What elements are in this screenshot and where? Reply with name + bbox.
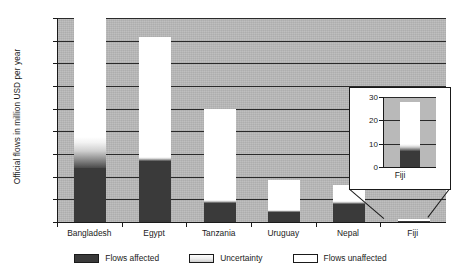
bar-segment-affected [204, 203, 236, 222]
bar-segment-unaffected [268, 180, 300, 209]
bar-segment-affected [333, 204, 365, 222]
bar-segment-uncertainty [74, 137, 106, 168]
legend-swatch-affected-icon [74, 254, 99, 263]
chart-figure: Official flows in million USD per year 0… [0, 0, 461, 280]
x-tick-label: Bangladesh [67, 228, 111, 238]
legend-swatch-unaffected-icon [293, 254, 318, 263]
bar-segment-affected [268, 212, 300, 222]
inset-y-tick-label: 10 [356, 139, 378, 148]
y-tick-mark [53, 86, 57, 87]
x-tick-mark [251, 223, 252, 227]
gridline [58, 63, 446, 64]
inset-bar-segment-unaffected [400, 102, 420, 144]
inset-y-tick-mark [379, 144, 383, 145]
x-tick-label: Fiji [407, 228, 418, 238]
bar-segment-affected [74, 168, 106, 222]
y-tick-mark [53, 177, 57, 178]
y-tick-mark [53, 154, 57, 155]
inset-x-label: Fiji [350, 170, 450, 180]
chart-legend: Flows affected Uncertainty Flows unaffec… [0, 250, 461, 266]
inset-y-tick-mark [379, 120, 383, 121]
y-tick-mark [53, 131, 57, 132]
bar-fiji [398, 219, 430, 222]
legend-item-affected: Flows affected [74, 253, 159, 263]
inset-bar-fiji [400, 102, 420, 167]
x-tick-label: Uruguay [268, 228, 300, 238]
bar-egypt [139, 37, 171, 222]
y-tick-mark [53, 109, 57, 110]
legend-item-uncertainty: Uncertainty [189, 253, 262, 263]
x-tick-label: Nepal [337, 228, 359, 238]
bar-segment-unaffected [139, 37, 171, 157]
legend-label-unaffected: Flows unaffected [324, 253, 387, 263]
y-tick-mark [53, 18, 57, 19]
x-tick-mark [57, 223, 58, 227]
bar-uruguay [268, 180, 300, 222]
x-tick-label: Tanzania [202, 228, 236, 238]
y-tick-mark [53, 63, 57, 64]
inset-y-tick-label: 20 [356, 116, 378, 125]
y-tick-mark [53, 41, 57, 42]
x-tick-label: Egypt [143, 228, 164, 238]
gridline [58, 18, 446, 19]
inset-bar-segment-uncertainty [400, 144, 420, 151]
x-tick-mark [316, 223, 317, 227]
legend-item-unaffected: Flows unaffected [293, 253, 387, 263]
gridline [58, 41, 446, 42]
y-axis-title: Official flows in million USD per year [13, 12, 22, 222]
bar-bangladesh [74, 18, 106, 222]
inset-plot-area [383, 97, 436, 168]
legend-label-uncertainty: Uncertainty [220, 253, 262, 263]
inset-gridline [384, 97, 436, 98]
inset-bar-segment-affected [400, 151, 420, 167]
inset-y-tick-label: 30 [356, 93, 378, 102]
gridline [58, 199, 446, 200]
bar-tanzania [204, 109, 236, 222]
inset-y-tick-mark [379, 97, 383, 98]
bar-segment-unaffected [74, 18, 106, 137]
x-tick-mark [186, 223, 187, 227]
legend-swatch-uncertainty-icon [189, 254, 214, 263]
inset-y-tick-mark [379, 167, 383, 168]
bar-segment-unaffected [204, 109, 236, 200]
x-tick-mark [122, 223, 123, 227]
bar-segment-affected [398, 221, 430, 222]
bar-segment-affected [139, 161, 171, 222]
legend-label-affected: Flows affected [105, 253, 159, 263]
fiji-inset-panel: 0102030 Fiji [349, 87, 451, 190]
x-tick-mark [380, 223, 381, 227]
y-tick-mark [53, 199, 57, 200]
